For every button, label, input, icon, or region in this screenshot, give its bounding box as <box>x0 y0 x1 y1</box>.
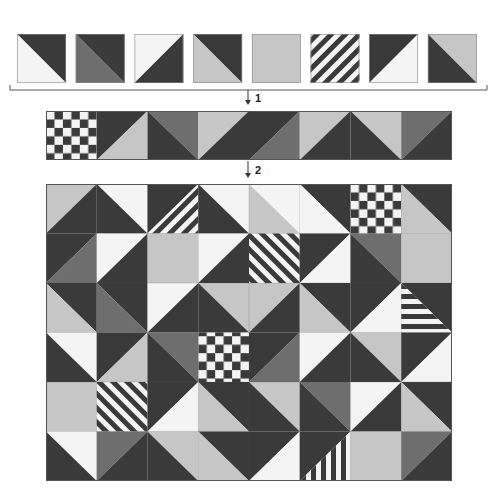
step-label-1: 1 <box>255 92 261 104</box>
quilt-grid-tiles <box>46 184 452 481</box>
quilt-tile <box>46 382 97 432</box>
quilt-tile <box>351 382 402 432</box>
quilt-tile <box>97 184 148 234</box>
quilt-tile <box>46 333 97 383</box>
quilt-tile <box>148 184 199 234</box>
swatch-tile <box>193 34 242 83</box>
swatch-tiles <box>17 34 483 84</box>
quilt-tile <box>401 382 452 432</box>
step-label-2: 2 <box>255 164 261 176</box>
quilt-tile <box>198 283 249 333</box>
strip-tiles <box>46 111 452 160</box>
swatch-tile <box>134 34 183 83</box>
swatch-row <box>17 34 483 84</box>
quilt-grid <box>46 184 452 481</box>
arrow-down-icon <box>243 161 253 179</box>
quilt-tile <box>97 234 148 284</box>
quilt-tile <box>198 333 249 383</box>
strip-tile <box>46 111 97 160</box>
quilt-tile <box>97 333 148 383</box>
swatch-tile <box>311 34 360 83</box>
quilt-tile <box>198 432 249 482</box>
strip-tile <box>198 111 249 160</box>
quilt-tile <box>351 432 402 482</box>
quilt-tile <box>351 184 402 234</box>
quilt-tile <box>300 333 351 383</box>
arrow-down-icon <box>243 90 253 106</box>
quilt-tile <box>97 382 148 432</box>
swatch-tile <box>76 34 125 83</box>
strip-tile <box>351 111 402 160</box>
quilt-tile <box>148 283 199 333</box>
quilt-tile <box>46 234 97 284</box>
quilt-tile <box>300 184 351 234</box>
quilt-tile <box>46 184 97 234</box>
swatch-tile <box>369 34 418 83</box>
quilt-tile <box>46 283 97 333</box>
quilt-tile <box>249 432 300 482</box>
quilt-tile <box>198 382 249 432</box>
quilt-tile <box>148 234 199 284</box>
quilt-tile <box>97 432 148 482</box>
quilt-tile <box>249 382 300 432</box>
quilt-tile <box>300 283 351 333</box>
quilt-tile <box>351 234 402 284</box>
strip-tile <box>148 111 199 160</box>
quilt-tile <box>351 283 402 333</box>
quilt-tile <box>249 333 300 383</box>
quilt-tile <box>148 382 199 432</box>
strip-tile <box>249 111 300 160</box>
quilt-tile <box>249 283 300 333</box>
quilt-tile <box>351 333 402 383</box>
quilt-tile <box>300 382 351 432</box>
quilt-tile <box>249 184 300 234</box>
assembled-strip <box>46 111 452 160</box>
quilt-tile <box>97 283 148 333</box>
strip-tile <box>401 111 452 160</box>
strip-tile <box>97 111 148 160</box>
swatch-tile <box>252 34 301 83</box>
quilt-tile <box>300 432 351 482</box>
strip-tile <box>300 111 351 160</box>
quilt-tile <box>401 432 452 482</box>
quilt-tile <box>46 432 97 482</box>
quilt-tile <box>198 234 249 284</box>
swatch-tile <box>428 34 477 83</box>
swatch-tile <box>17 34 66 83</box>
quilt-tile <box>148 333 199 383</box>
quilt-tile <box>198 184 249 234</box>
quilt-tile <box>401 234 452 284</box>
quilt-tile <box>249 234 300 284</box>
quilt-tile <box>148 432 199 482</box>
quilt-tile <box>401 333 452 383</box>
quilt-tile <box>401 184 452 234</box>
quilt-tile <box>401 283 452 333</box>
quilt-tile <box>300 234 351 284</box>
